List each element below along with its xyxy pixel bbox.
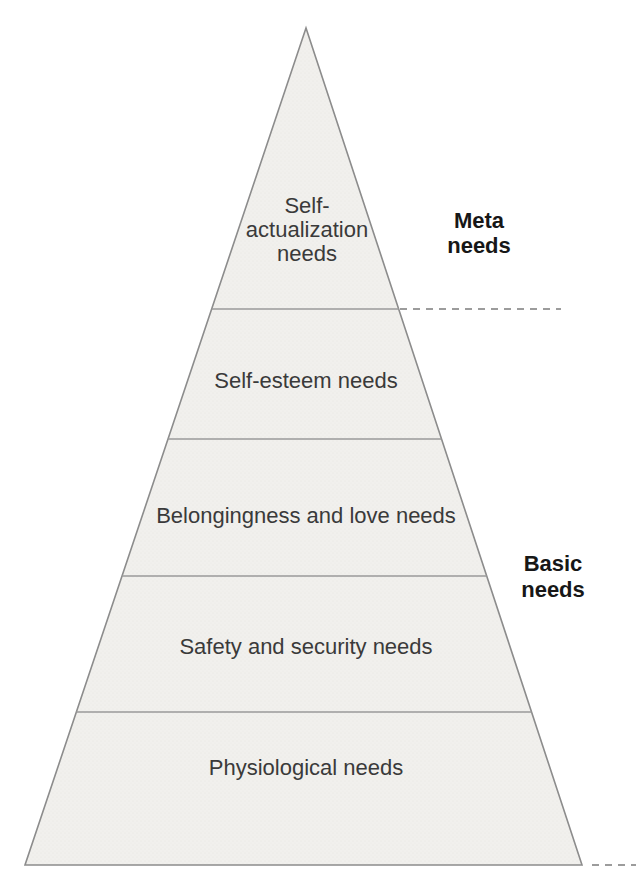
level-label-physiological: Physiological needs	[209, 755, 403, 780]
level-label-self-actualization-line3: needs	[277, 241, 337, 266]
basic-needs-label-line1: Basic	[524, 551, 583, 576]
pyramid-canvas: Self- actualization needs Self-esteem ne…	[0, 0, 636, 892]
basic-needs-label-line2: needs	[521, 577, 585, 602]
meta-needs-label-line2: needs	[447, 233, 511, 258]
level-label-safety: Safety and security needs	[179, 634, 432, 659]
level-label-belongingness: Belongingness and love needs	[156, 503, 456, 528]
level-label-self-actualization-line1: Self-	[284, 193, 329, 218]
pyramid-shape	[25, 28, 582, 865]
level-label-self-actualization-line2: actualization	[246, 217, 368, 242]
maslow-pyramid-diagram: Self- actualization needs Self-esteem ne…	[0, 0, 636, 892]
level-label-self-esteem: Self-esteem needs	[214, 368, 397, 393]
meta-needs-label-line1: Meta	[454, 208, 505, 233]
